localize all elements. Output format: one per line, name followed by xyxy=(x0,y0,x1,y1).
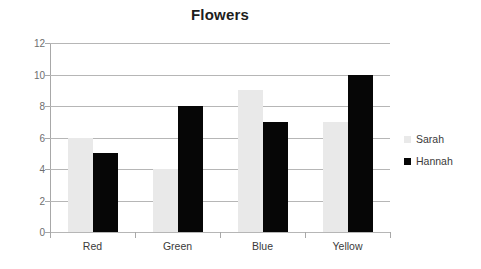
y-axis-tick-labels: 024681012 xyxy=(20,43,45,232)
legend-swatch-icon-sarah xyxy=(404,136,411,143)
legend-label-hannah: Hannah xyxy=(416,155,453,167)
chart-legend: SarahHannah xyxy=(404,128,481,172)
bar-green-hannah[interactable] xyxy=(178,106,203,232)
y-tick-label-10: 10 xyxy=(23,69,45,80)
y-tick-label-2: 2 xyxy=(23,195,45,206)
legend-item-hannah[interactable]: Hannah xyxy=(404,150,481,172)
bar-group-blue xyxy=(220,43,305,232)
bar-group-yellow xyxy=(305,43,390,232)
y-tick-mark-2 xyxy=(45,201,50,202)
category-tick-red xyxy=(135,232,136,238)
y-tick-mark-4 xyxy=(45,169,50,170)
y-tick-label-0: 0 xyxy=(23,227,45,238)
y-tick-label-12: 12 xyxy=(23,38,45,49)
category-label-blue: Blue xyxy=(252,240,273,252)
bar-green-sarah[interactable] xyxy=(153,169,178,232)
category-tick-green xyxy=(220,232,221,238)
bar-group-green xyxy=(135,43,220,232)
y-tick-label-8: 8 xyxy=(23,101,45,112)
y-tick-label-4: 4 xyxy=(23,164,45,175)
bar-blue-hannah[interactable] xyxy=(263,122,288,232)
y-tick-mark-12 xyxy=(45,43,50,44)
bar-yellow-sarah[interactable] xyxy=(323,122,348,232)
legend-label-sarah: Sarah xyxy=(416,133,444,145)
bar-red-sarah[interactable] xyxy=(68,138,93,233)
bar-blue-sarah[interactable] xyxy=(238,90,263,232)
chart-title: Flowers xyxy=(0,6,440,23)
plot-area xyxy=(50,43,390,232)
category-label-red: Red xyxy=(83,240,102,252)
y-tick-mark-10 xyxy=(45,75,50,76)
category-tick-origin xyxy=(50,232,51,238)
category-tick-yellow xyxy=(390,232,391,238)
legend-item-sarah[interactable]: Sarah xyxy=(404,128,481,150)
bar-red-hannah[interactable] xyxy=(93,153,118,232)
category-label-yellow: Yellow xyxy=(333,240,363,252)
bar-chart: Flowers 024681012 SarahHannah RedGreenBl… xyxy=(0,0,481,269)
y-tick-label-6: 6 xyxy=(23,132,45,143)
category-label-green: Green xyxy=(163,240,192,252)
category-tick-blue xyxy=(305,232,306,238)
bar-group-red xyxy=(50,43,135,232)
bar-yellow-hannah[interactable] xyxy=(348,75,373,233)
y-tick-mark-8 xyxy=(45,106,50,107)
y-tick-mark-6 xyxy=(45,138,50,139)
legend-swatch-icon-hannah xyxy=(404,158,411,165)
